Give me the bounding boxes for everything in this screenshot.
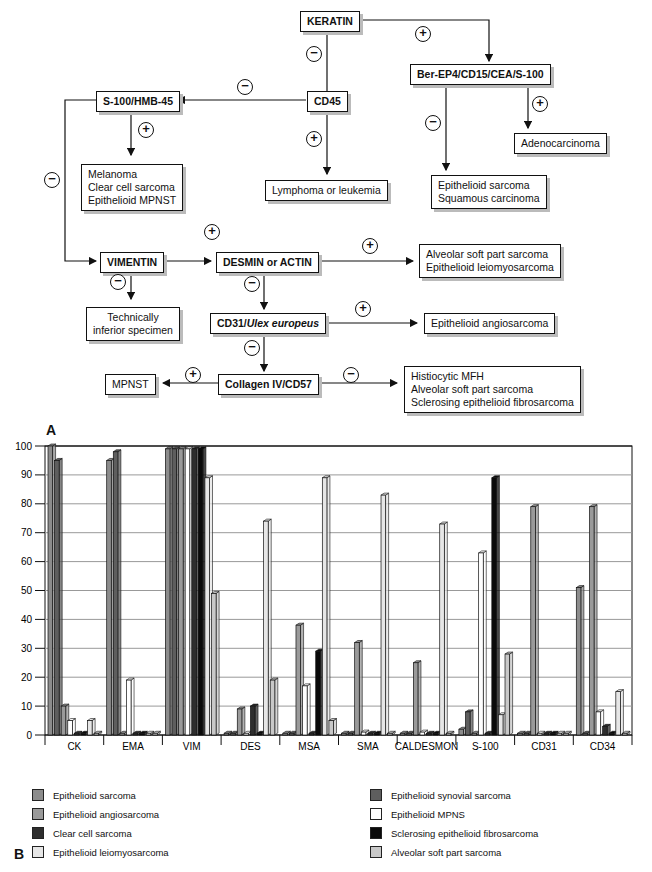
node-keratin: KERATIN — [300, 11, 360, 32]
minus-sign-icon: − — [425, 115, 441, 131]
node-cd45: CD45 — [307, 91, 348, 112]
node-alveolar-leiomyo: Alveolar soft part sarcoma Epithelioid l… — [419, 244, 561, 278]
node-histiocytic-group: Histiocytic MFH Alveolar soft part sarco… — [404, 366, 581, 413]
minus-sign-icon: − — [244, 276, 260, 292]
node-desmin-actin: DESMIN or ACTIN — [216, 252, 319, 273]
svg-text:CD34: CD34 — [590, 741, 616, 752]
svg-text:40: 40 — [21, 614, 33, 625]
legend-item: Epithelioid sarcoma — [32, 789, 136, 801]
plus-sign-icon: + — [532, 96, 548, 112]
node-lymphoma: Lymphoma or leukemia — [265, 180, 388, 201]
svg-text:CALDESMON: CALDESMON — [395, 741, 458, 752]
plus-sign-icon: + — [415, 26, 431, 42]
node-cd31-ulex: CD31/Ulex europeus — [210, 313, 326, 334]
minus-sign-icon: − — [237, 79, 253, 95]
svg-text:EMA: EMA — [122, 741, 144, 752]
svg-text:CD31: CD31 — [531, 741, 557, 752]
node-adenocarcinoma: Adenocarcinoma — [514, 133, 607, 154]
node-ber-ep4: Ber-EP4/CD15/CEA/S-100 — [410, 64, 551, 85]
legend-swatch — [370, 846, 382, 858]
minus-sign-icon: − — [44, 172, 60, 188]
svg-text:20: 20 — [21, 672, 33, 683]
panel-label-a: A — [46, 422, 56, 438]
legend-item: Epithelioid MPNS — [370, 808, 465, 820]
svg-text:S-100: S-100 — [472, 741, 499, 752]
legend-item: Clear cell sarcoma — [32, 827, 132, 839]
legend-swatch — [32, 808, 44, 820]
svg-text:90: 90 — [21, 469, 33, 480]
plus-sign-icon: + — [362, 238, 378, 254]
svg-text:60: 60 — [21, 556, 33, 567]
minus-sign-icon: − — [343, 367, 359, 383]
svg-text:80: 80 — [21, 498, 33, 509]
plus-sign-icon: + — [204, 224, 220, 240]
minus-sign-icon: − — [110, 274, 126, 290]
svg-text:SMA: SMA — [357, 741, 379, 752]
legend-swatch — [370, 827, 382, 839]
legend-item: Alveolar soft part sarcoma — [370, 846, 501, 858]
svg-text:0: 0 — [26, 730, 32, 741]
legend-item: Epithelioid synovial sarcoma — [370, 789, 511, 801]
legend-item: Epithelioid angiosarcoma — [32, 808, 159, 820]
legend-item: Sclerosing epithelioid fibrosarcoma — [370, 827, 538, 839]
svg-text:100: 100 — [15, 441, 32, 452]
panel-label-b: B — [14, 846, 24, 862]
node-mpnst: MPNST — [105, 374, 156, 395]
node-vimentin: VIMENTIN — [100, 252, 164, 273]
legend-swatch — [370, 789, 382, 801]
flowchart: KERATIN Ber-EP4/CD15/CEA/S-100 CD45 S-10… — [0, 0, 652, 410]
legend-item: Epithelioid leiomyosarcoma — [32, 846, 169, 858]
node-epithelioid-squamous: Epithelioid sarcoma Squamous carcinoma — [431, 175, 547, 209]
svg-text:MSA: MSA — [298, 741, 320, 752]
svg-text:CK: CK — [67, 741, 81, 752]
svg-text:DES: DES — [240, 741, 261, 752]
legend-swatch — [32, 789, 44, 801]
plus-sign-icon: + — [355, 301, 371, 317]
legend-swatch — [370, 808, 382, 820]
legend-swatch — [32, 827, 44, 839]
plus-sign-icon: + — [138, 122, 154, 138]
minus-sign-icon: − — [306, 46, 322, 62]
svg-text:30: 30 — [21, 643, 33, 654]
svg-text:50: 50 — [21, 585, 33, 596]
svg-text:VIM: VIM — [183, 741, 201, 752]
minus-sign-icon: − — [244, 340, 260, 356]
legend-swatch — [32, 846, 44, 858]
node-s100-hmb45: S-100/HMB-45 — [96, 91, 180, 112]
bar-chart: 0102030405060708090100CKEMAVIMDESMSASMAC… — [0, 440, 652, 770]
node-technically-inferior: Technically inferior specimen — [86, 307, 180, 341]
node-collagen-cd57: Collagen IV/CD57 — [218, 374, 319, 395]
bar-chart-plot: 0102030405060708090100CKEMAVIMDESMSASMAC… — [0, 440, 652, 770]
chart-legend: Epithelioid sarcoma Epithelioid angiosar… — [0, 785, 652, 845]
svg-text:10: 10 — [21, 701, 33, 712]
node-melanoma-group: Melanoma Clear cell sarcoma Epithelioid … — [81, 164, 183, 211]
node-epithelioid-angiosarcoma: Epithelioid angiosarcoma — [424, 313, 555, 334]
svg-text:70: 70 — [21, 527, 33, 538]
plus-sign-icon: + — [185, 367, 201, 383]
plus-sign-icon: + — [306, 131, 322, 147]
